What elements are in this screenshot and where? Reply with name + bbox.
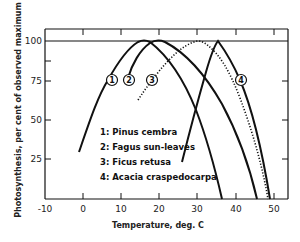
curve-marker-2: 2 [124,75,135,86]
x-tick-label: 40 [230,204,242,214]
x-tick-label: -10 [38,204,53,214]
legend-item-ficus-retusa: 3: Ficus retusa [100,157,171,167]
x-tick-labels: -10 0 10 20 30 40 50 [38,204,280,214]
legend-item-pinus-cembra: 1: Pinus cembra [100,127,177,137]
y-tick-label: 75 [31,76,42,86]
x-tick-label: 30 [191,204,203,214]
y-tick-label: 50 [31,115,43,125]
y-tick-label: 100 [25,36,42,46]
curve-marker-3: 3 [147,75,158,86]
x-tick-label: 50 [268,204,280,214]
legend: 1: Pinus cembra 2: Fagus sun-leaves 3: F… [100,127,217,182]
legend-item-acacia-craspedocarpa: 4: Acacia craspedocarpa [100,172,217,182]
x-tick-label: 10 [115,204,127,214]
chart: -10 0 10 20 30 40 50 100 75 50 25 Temper… [0,0,300,242]
y-tick-labels: 100 75 50 25 [25,36,42,164]
x-tick-label: 0 [80,204,86,214]
y-axis-title: Photosynthesis, per cent of observed max… [14,2,23,218]
svg-text:4: 4 [238,76,244,85]
x-axis-title: Temperature, deg. C [112,221,204,230]
svg-text:3: 3 [149,76,155,85]
svg-text:2: 2 [126,76,132,85]
curve-marker-1: 1 [107,75,118,86]
legend-item-fagus-sun-leaves: 2: Fagus sun-leaves [100,142,195,152]
curve-marker-4: 4 [236,75,247,86]
y-tick-label: 25 [31,154,42,164]
x-tick-label: 20 [153,204,165,214]
svg-text:1: 1 [109,76,115,85]
